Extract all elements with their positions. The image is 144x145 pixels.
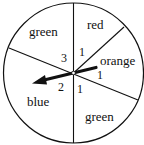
arrow-pivot [72, 71, 76, 75]
sector-value-green-top: 3 [61, 51, 67, 65]
sector-value-red: 1 [79, 45, 85, 59]
sector-label-green-bottom: green [85, 109, 114, 124]
sector-label-orange: orange [100, 53, 136, 68]
sector-value-orange: 1 [97, 68, 103, 82]
spinner-diagram: green red orange green blue 3 1 1 1 2 [0, 0, 144, 145]
sector-label-blue: blue [27, 94, 50, 109]
sector-label-green-top: green [29, 24, 58, 39]
sector-value-blue: 2 [58, 80, 64, 94]
sector-label-red: red [87, 17, 104, 32]
sector-value-green-bottom: 1 [77, 82, 83, 96]
